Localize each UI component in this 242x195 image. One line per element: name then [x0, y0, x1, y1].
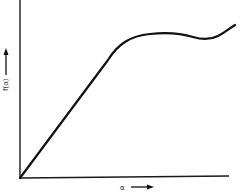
- curve-f-alpha: [20, 25, 235, 178]
- x-axis-label: α: [120, 184, 154, 192]
- y-arrowhead-icon: [4, 48, 9, 55]
- x-axis-label-text: α: [120, 184, 125, 192]
- x-arrowhead-icon: [147, 185, 154, 190]
- x-axis: [20, 176, 229, 178]
- y-axis-label: f(α): [2, 48, 10, 91]
- y-axis-label-text: f(α): [2, 78, 10, 91]
- line-chart: f(α) α: [0, 0, 242, 195]
